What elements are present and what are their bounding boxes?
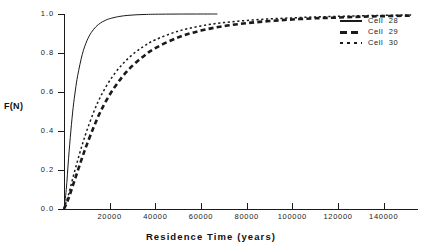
legend-label: Cell 29 [368, 27, 398, 37]
legend-item-cell-28: Cell 28 [340, 16, 418, 26]
legend-item-cell-29: Cell 29 [340, 27, 418, 37]
chart-legend: Cell 28 Cell 29 Cell 30 [340, 16, 418, 49]
chart-figure: 0.00.20.40.60.81.0 200004000060000800001… [0, 0, 422, 251]
legend-swatch-dotted-icon [340, 42, 362, 44]
legend-swatch-solid-icon [340, 20, 362, 22]
legend-label: Cell 30 [368, 38, 398, 48]
curve-solid [64, 14, 217, 209]
legend-item-cell-30: Cell 30 [340, 38, 418, 48]
legend-swatch-dashed-icon [340, 31, 362, 34]
legend-label: Cell 28 [368, 16, 398, 26]
